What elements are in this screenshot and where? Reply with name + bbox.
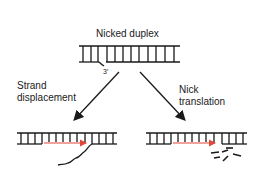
nick-translation-duplex bbox=[146, 133, 247, 144]
displaced-strand bbox=[58, 144, 92, 165]
diagram-canvas bbox=[0, 0, 263, 177]
arrow-strand-displacement bbox=[75, 72, 119, 119]
strand-displacement-duplex bbox=[17, 133, 117, 165]
arrow-nick-translation bbox=[140, 72, 184, 119]
degraded-fragments bbox=[211, 148, 241, 161]
nicked-duplex bbox=[79, 46, 180, 66]
